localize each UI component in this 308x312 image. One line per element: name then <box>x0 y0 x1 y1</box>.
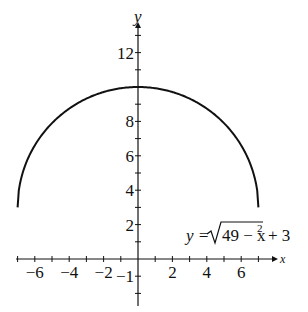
x-tick-label: 2 <box>168 263 177 282</box>
x-axis-label: x <box>279 252 286 266</box>
y-tick-label: 8 <box>126 112 135 131</box>
equation-label: y = 49 − x 2 + 3 <box>184 222 290 245</box>
y-tick-label: 4 <box>126 181 135 200</box>
y-tick-label: −1 <box>116 267 134 286</box>
x-tick-label: −2 <box>95 263 113 282</box>
x-axis-arrow-icon <box>272 256 278 262</box>
y-axis-label: y <box>132 7 142 26</box>
x-tick-label: 4 <box>203 263 212 282</box>
y-tick-label: 6 <box>126 147 135 166</box>
y-tick-label: 12 <box>117 44 134 63</box>
chart: −6−4−2246128642−1 y x y = 49 − x 2 + 3 <box>0 0 308 312</box>
y-tick-label: 2 <box>126 216 135 235</box>
x-tick-label: −6 <box>26 263 44 282</box>
x-tick-label: −4 <box>60 263 79 282</box>
equation-rhs: + 3 <box>268 226 290 245</box>
equation-lhs: y = <box>184 226 209 245</box>
x-tick-label: 6 <box>237 263 246 282</box>
equation-exponent: 2 <box>257 222 263 234</box>
